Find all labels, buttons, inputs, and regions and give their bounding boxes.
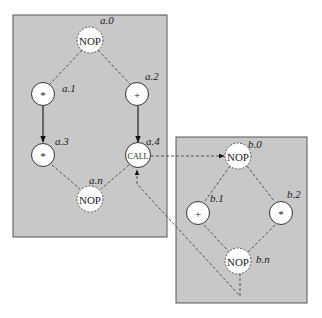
svg-text:b.2: b.2 <box>287 188 301 200</box>
svg-text:+: + <box>195 208 201 220</box>
svg-text:*: * <box>40 150 46 162</box>
svg-text:NOP: NOP <box>79 35 101 47</box>
svg-text:b.n: b.n <box>256 253 270 265</box>
svg-text:NOP: NOP <box>227 151 249 163</box>
diagram-canvas: NOP a.0 * a.1 + a.2 * a.3 CALL a.4 NOP a… <box>0 0 322 318</box>
svg-text:b.0: b.0 <box>248 138 262 150</box>
svg-text:a.2: a.2 <box>145 70 159 82</box>
svg-text:a.4: a.4 <box>146 135 160 147</box>
svg-text:a.1: a.1 <box>62 82 76 94</box>
svg-text:+: + <box>134 89 140 101</box>
svg-text:NOP: NOP <box>79 194 101 206</box>
svg-text:a.0: a.0 <box>100 14 114 26</box>
svg-text:*: * <box>40 89 46 101</box>
svg-text:b.1: b.1 <box>210 192 224 204</box>
svg-text:*: * <box>278 208 284 220</box>
svg-text:a.3: a.3 <box>55 135 69 147</box>
svg-text:NOP: NOP <box>227 256 249 268</box>
svg-text:a.n: a.n <box>89 174 103 186</box>
svg-text:CALL: CALL <box>128 152 149 161</box>
